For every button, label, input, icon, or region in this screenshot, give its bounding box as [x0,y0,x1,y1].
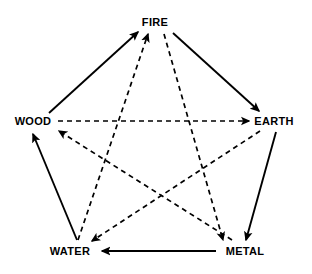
edge-water-to-fire [78,34,148,240]
edge-fire-to-earth [173,33,259,111]
edge-earth-to-water [92,131,260,241]
node-label-fire: FIRE [140,16,170,29]
edge-metal-to-wood [59,131,232,240]
node-label-water: WATER [48,245,92,258]
edge-water-to-wood [33,134,77,240]
edge-fire-to-metal [164,34,223,240]
overcoming-cycle-group [58,34,260,241]
wuxing-diagram: FIRE EARTH METAL WATER WOOD [0,0,312,274]
node-label-earth: EARTH [252,115,295,128]
generating-cycle-group [33,32,276,251]
edge-earth-to-metal [246,132,276,240]
node-label-metal: METAL [224,245,267,258]
node-label-wood: WOOD [13,115,54,128]
wuxing-edges-canvas [0,0,312,274]
